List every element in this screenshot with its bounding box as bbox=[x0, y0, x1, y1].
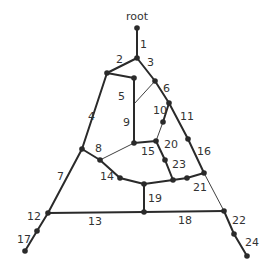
edge-label-19: 19 bbox=[148, 192, 162, 205]
node bbox=[134, 55, 140, 61]
node bbox=[152, 78, 158, 84]
node bbox=[231, 231, 237, 237]
edge-19-23-link bbox=[144, 180, 173, 184]
edge-label-2: 2 bbox=[116, 53, 123, 66]
node bbox=[34, 228, 40, 234]
node bbox=[153, 138, 159, 144]
node bbox=[184, 175, 190, 181]
edge-label-24: 24 bbox=[245, 236, 259, 249]
edge-label-16: 16 bbox=[197, 145, 211, 158]
node bbox=[201, 170, 207, 176]
node bbox=[104, 70, 110, 76]
nodes bbox=[22, 25, 250, 259]
node bbox=[131, 140, 137, 146]
edge-label-4: 4 bbox=[88, 110, 95, 123]
node bbox=[166, 100, 172, 106]
edge-18 bbox=[144, 211, 224, 212]
edge-13 bbox=[48, 212, 144, 213]
node bbox=[97, 157, 103, 163]
node bbox=[185, 136, 191, 142]
root-label: root bbox=[126, 10, 149, 23]
node bbox=[79, 146, 85, 152]
edge-label-1: 1 bbox=[140, 38, 147, 51]
edge-label-18: 18 bbox=[178, 214, 192, 227]
edge-thin-8-15 bbox=[100, 143, 134, 160]
edge-label-7: 7 bbox=[57, 170, 64, 183]
edge-label-10: 10 bbox=[153, 104, 167, 117]
node bbox=[131, 75, 137, 81]
edge-label-21: 21 bbox=[193, 181, 207, 194]
edge-label-9: 9 bbox=[123, 116, 130, 129]
node bbox=[160, 119, 166, 125]
node-leaf bbox=[244, 253, 250, 259]
edge-label-17: 17 bbox=[17, 233, 31, 246]
edge-label-20: 20 bbox=[164, 138, 178, 151]
edge-label-13: 13 bbox=[88, 215, 102, 228]
edge-thin-10-20 bbox=[156, 122, 163, 141]
node bbox=[117, 175, 123, 181]
node bbox=[141, 209, 147, 215]
edge-thin-3-9 bbox=[134, 81, 155, 104]
tree-diagram: root 1 2 3 4 5 6 7 8 9 10 11 12 13 14 15… bbox=[0, 0, 274, 271]
edge-label-15: 15 bbox=[141, 145, 155, 158]
edge-label-8: 8 bbox=[95, 142, 102, 155]
edge-7 bbox=[48, 149, 82, 213]
edge-5 bbox=[107, 73, 134, 78]
edge-15 bbox=[134, 141, 156, 143]
edge-label-23: 23 bbox=[172, 158, 186, 171]
node bbox=[221, 208, 227, 214]
node bbox=[45, 210, 51, 216]
edge-label-14: 14 bbox=[100, 170, 114, 183]
node-root bbox=[134, 25, 140, 31]
edge-label-5: 5 bbox=[118, 90, 125, 103]
edge-label-6: 6 bbox=[163, 82, 170, 95]
node bbox=[162, 157, 168, 163]
edge-label-12: 12 bbox=[27, 210, 41, 223]
edge-label-11: 11 bbox=[180, 110, 194, 123]
edge-label-3: 3 bbox=[147, 56, 154, 69]
edge-label-22: 22 bbox=[232, 214, 246, 227]
edge-thin-16-22 bbox=[204, 173, 224, 211]
node bbox=[141, 181, 147, 187]
node bbox=[170, 177, 176, 183]
node-leaf bbox=[22, 248, 28, 254]
